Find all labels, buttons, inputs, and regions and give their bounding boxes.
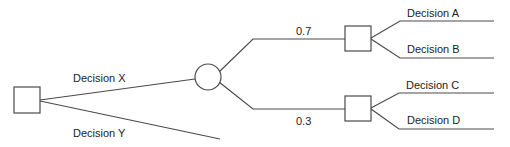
edge-prob-lower — [219, 82, 345, 109]
lower-decision-node — [345, 96, 371, 121]
edge-decision-c — [371, 93, 494, 108]
decision-tree-diagram: Decision X Decision Y 0.7 0.3 Decision A… — [0, 0, 510, 147]
diagram-svg: Decision X Decision Y 0.7 0.3 Decision A… — [0, 0, 510, 147]
label-prob-lower: 0.3 — [296, 115, 311, 127]
edge-decision-a — [371, 21, 494, 38]
label-decision-b: Decision B — [407, 43, 460, 55]
edge-prob-upper — [219, 39, 345, 72]
label-prob-upper: 0.7 — [296, 25, 311, 37]
upper-decision-node — [345, 26, 371, 51]
label-decision-y: Decision Y — [73, 127, 126, 139]
label-decision-a: Decision A — [407, 7, 460, 19]
label-decision-d: Decision D — [407, 114, 460, 126]
label-decision-c: Decision C — [406, 79, 459, 91]
root-decision-node — [14, 87, 40, 113]
chance-node — [195, 64, 221, 90]
label-decision-x: Decision X — [73, 72, 126, 84]
edge-decision-y — [40, 101, 220, 139]
